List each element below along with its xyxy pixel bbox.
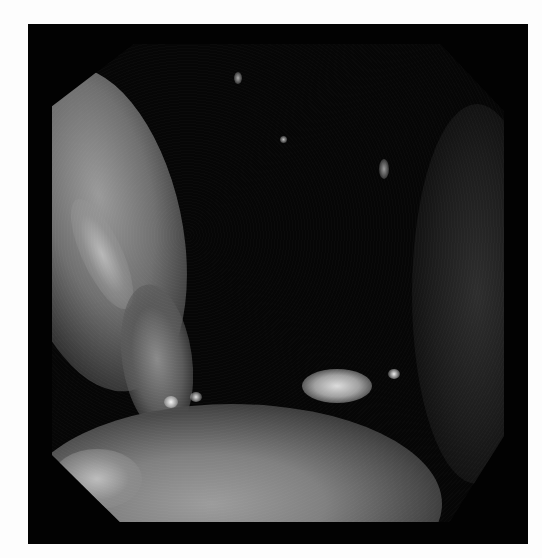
endoscopy-view xyxy=(52,44,504,522)
image-frame xyxy=(28,24,528,544)
sensor-noise xyxy=(52,44,504,522)
